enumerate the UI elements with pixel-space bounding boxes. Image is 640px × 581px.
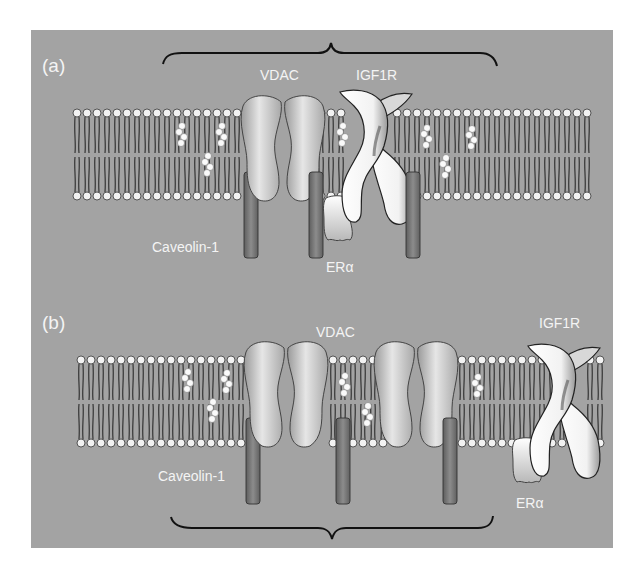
- panel-a-label: (a): [42, 55, 65, 76]
- er-alpha-label-a: ERα: [326, 259, 354, 275]
- caveolin-a-3: [406, 172, 420, 258]
- caveolin-b-2: [336, 418, 350, 504]
- caveolin-label-a: Caveolin-1: [152, 239, 219, 255]
- caveolin-a-2: [309, 172, 323, 258]
- caveolin-b-3: [443, 418, 457, 504]
- caveolin-label-b: Caveolin-1: [158, 468, 225, 484]
- membrane-diagram: (a): [0, 0, 640, 581]
- igf1r-label-a: IGF1R: [356, 67, 397, 83]
- igf1r-label-b: IGF1R: [539, 315, 580, 331]
- panel-b-label: (b): [42, 312, 65, 333]
- er-alpha-label-b: ERα: [516, 495, 544, 511]
- vdac-label-b: VDAC: [316, 324, 355, 340]
- vdac-label-a: VDAC: [260, 67, 299, 83]
